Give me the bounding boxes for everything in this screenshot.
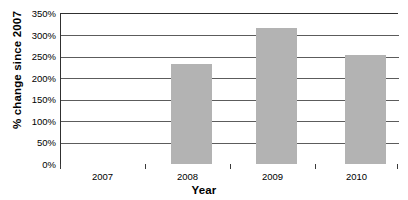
- bar-2008: [171, 64, 212, 164]
- x-tick-mark: [397, 164, 398, 169]
- x-tick-mark: [230, 164, 231, 169]
- y-tick-label: 250%: [12, 52, 56, 62]
- y-tick-label: 350%: [12, 9, 56, 19]
- x-axis-title: Year: [0, 184, 408, 196]
- plot-area: [60, 14, 398, 164]
- x-tick-label-2009: 2009: [230, 172, 315, 182]
- y-axis-tick-labels: 350% 300% 250% 200% 150% 100% 50% 0%: [16, 0, 60, 200]
- x-tick-mark: [60, 164, 61, 169]
- y-tick-label: 50%: [12, 138, 56, 148]
- bar-2010: [345, 55, 386, 164]
- y-tick-label: 100%: [12, 117, 56, 127]
- x-tick-label-2010: 2010: [315, 172, 398, 182]
- bar-2009: [256, 28, 297, 164]
- y-tick-label: 200%: [12, 74, 56, 84]
- y-tick-label: 300%: [12, 31, 56, 41]
- bar-chart-figure: % change since 2007 350% 300% 250% 200% …: [0, 0, 408, 200]
- x-tick-label-2008: 2008: [145, 172, 230, 182]
- x-tick-label-2007: 2007: [60, 172, 145, 182]
- gridline: [61, 35, 399, 36]
- x-tick-mark: [145, 164, 146, 169]
- y-tick-label: 150%: [12, 95, 56, 105]
- x-tick-mark: [315, 164, 316, 169]
- y-tick-label: 0%: [12, 160, 56, 170]
